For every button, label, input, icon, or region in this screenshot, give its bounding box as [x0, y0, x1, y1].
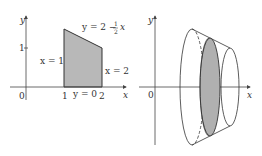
- shaded-region: [64, 29, 102, 87]
- top-curve-label-prefix: y = 2 −: [81, 22, 116, 32]
- origin-label: 0: [148, 90, 154, 100]
- left-boundary-label: x = 1: [40, 56, 64, 66]
- top-curve-frac-den: 2: [114, 28, 118, 35]
- y-tick-label-1: 1: [19, 43, 25, 53]
- bottom-boundary-label: y = 0: [72, 89, 97, 99]
- cross-section-disk: [200, 38, 220, 136]
- y-axis-label: y: [147, 15, 154, 25]
- x-tick-label-1: 1: [62, 91, 68, 101]
- top-curve-frac-num: 1: [114, 20, 118, 27]
- top-curve-label: y = 2 − 1 2 x: [81, 20, 125, 35]
- origin-label: 0: [19, 91, 25, 101]
- figure-canvas: y x 0 1 1 2 y = 0 x = 1 x = 2 y = 2 − 1 …: [0, 0, 262, 156]
- right-plot: y x 0: [139, 15, 252, 145]
- x-tick-label-2: 2: [99, 91, 105, 101]
- left-plot: y x 0 1 1 2 y = 0 x = 1 x = 2 y = 2 − 1 …: [10, 15, 129, 101]
- x-axis-label: x: [123, 90, 128, 100]
- x-axis-label: x: [247, 90, 252, 100]
- top-curve-label-suffix: x: [120, 22, 125, 32]
- right-boundary-label: x = 2: [105, 66, 129, 76]
- y-axis-label: y: [19, 15, 26, 25]
